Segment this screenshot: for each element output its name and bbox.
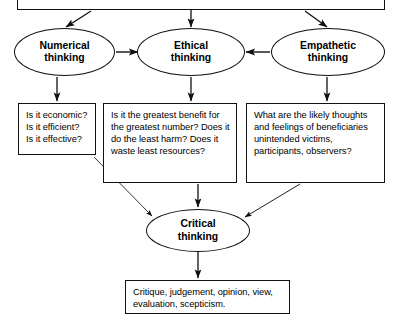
diagram-canvas: Numerical thinking Ethical thinking Empa… [0,0,394,323]
node-critical-thinking-label: Critical thinking [178,218,218,243]
box-empathetic-questions-text: What are the likely thoughts and feeling… [254,109,378,157]
arrow-top-to-empathetic [305,11,327,27]
node-ethical-thinking[interactable]: Ethical thinking [137,28,245,76]
node-numerical-thinking[interactable]: Numerical thinking [14,28,115,76]
box-numerical-questions-text: Is it economic? Is it efficient? Is it e… [26,109,87,145]
box-critical-thinking-outcomes[interactable]: Critique, judgement, opinion, view, eval… [125,280,290,314]
node-numerical-thinking-label: Numerical thinking [39,40,89,65]
arrow-top-to-numerical [66,11,91,27]
node-ethical-thinking-label: Ethical thinking [171,40,211,65]
box-ethical-questions-text: Is it the greatest benefit for the great… [111,109,230,157]
node-empathetic-thinking-label: Empathetic thinking [300,40,356,65]
box-numerical-questions[interactable]: Is it economic? Is it efficient? Is it e… [18,103,96,155]
node-critical-thinking[interactable]: Critical thinking [146,209,250,252]
box-critical-thinking-outcomes-text: Critique, judgement, opinion, view, eval… [133,286,283,311]
box-ethical-questions[interactable]: Is it the greatest benefit for the great… [103,103,237,183]
node-empathetic-thinking[interactable]: Empathetic thinking [271,28,385,76]
top-source-box [17,0,385,10]
arrow-empathetic-questions-to-critical [245,184,300,217]
box-empathetic-questions[interactable]: What are the likely thoughts and feeling… [246,103,385,183]
